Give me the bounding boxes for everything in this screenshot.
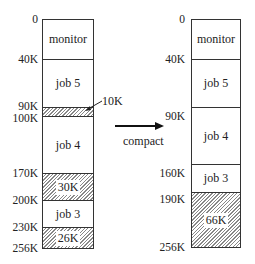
segment-label: job 4 xyxy=(56,138,80,153)
segment-label: 26K xyxy=(56,231,81,246)
address-256k: 256K xyxy=(2,242,38,254)
address-40k: 40K xyxy=(2,53,38,65)
address-0: 0 xyxy=(2,13,38,25)
address-90k: 90K xyxy=(2,100,38,112)
segment-free-30k: 30K xyxy=(43,174,93,201)
compact-label: compact xyxy=(123,134,164,149)
segment-free-66k: 66K xyxy=(192,193,240,247)
segment-label: 30K xyxy=(56,180,81,195)
segment-job-3: job 3 xyxy=(43,201,93,228)
address-200k: 200K xyxy=(2,194,38,206)
hole-size-callout: 10K xyxy=(102,94,123,109)
address-100k: 100K xyxy=(2,112,38,124)
callout-arrow-icon xyxy=(82,98,104,114)
address-256k: 256K xyxy=(149,241,185,253)
segment-monitor: monitor xyxy=(43,20,93,60)
segment-label: job 5 xyxy=(56,76,80,91)
segment-job-4: job 4 xyxy=(43,117,93,174)
segment-label: job 5 xyxy=(204,76,228,91)
segment-label: monitor xyxy=(197,32,235,47)
segment-label: job 3 xyxy=(204,171,228,186)
segment-job-3: job 3 xyxy=(192,165,240,193)
address-160k: 160K xyxy=(149,167,185,179)
memory-column-before: monitor job 5 job 4 30K job 3 26K xyxy=(42,19,94,249)
address-40k: 40K xyxy=(149,53,185,65)
segment-label: monitor xyxy=(49,32,87,47)
compact-arrow-icon xyxy=(115,121,165,131)
address-230k: 230K xyxy=(2,221,38,233)
segment-free-26k: 26K xyxy=(43,228,93,248)
address-170k: 170K xyxy=(2,167,38,179)
address-0: 0 xyxy=(149,13,185,25)
segment-job-4: job 4 xyxy=(192,108,240,165)
segment-label: job 4 xyxy=(204,129,228,144)
memory-column-after: monitor job 5 job 4 job 3 66K xyxy=(191,19,241,248)
segment-label: job 3 xyxy=(56,207,80,222)
segment-label: 66K xyxy=(204,213,229,228)
segment-monitor: monitor xyxy=(192,20,240,60)
address-190k: 190K xyxy=(149,193,185,205)
segment-job-5: job 5 xyxy=(192,60,240,108)
address-90k: 90K xyxy=(149,110,185,122)
